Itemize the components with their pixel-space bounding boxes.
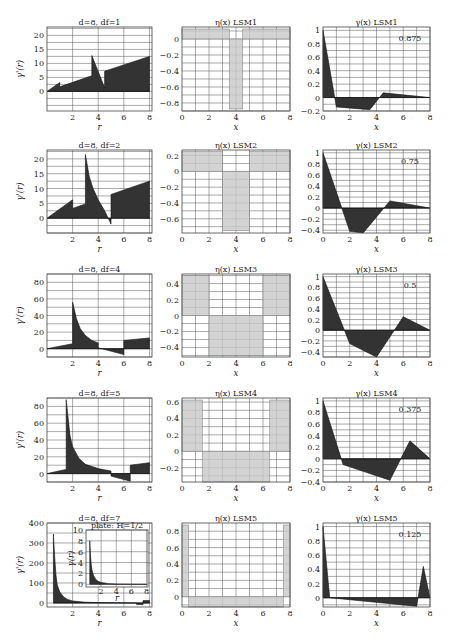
y-tick-label: 0.2 [166, 576, 179, 585]
y-tick-label: 0.4 [307, 182, 320, 191]
x-tick-label: 6 [121, 113, 126, 122]
x-tick-label: 4 [233, 484, 238, 493]
x-axis-label: x [374, 122, 379, 132]
y-tick-label: 60 [34, 295, 44, 304]
y-tick-label: 0.4 [166, 280, 179, 289]
chart-title: η(x) LSM5 [215, 514, 257, 523]
y-tick-label: 0 [39, 599, 44, 608]
y-tick-label: 0.2 [307, 443, 320, 452]
y-tick-label: 0 [174, 447, 179, 456]
y-tick-label: −0.8 [160, 99, 179, 108]
bar-1 [209, 316, 263, 356]
y-axis-label: γ'(r) [15, 431, 25, 449]
x-tick-label: 6 [401, 235, 406, 244]
x-tick-label: 4 [96, 484, 101, 493]
y-tick-label: −0.4 [301, 348, 320, 357]
y-tick-label: 0.8 [166, 527, 179, 536]
y-tick-label: 10 [34, 59, 44, 68]
chart-title: d=8, df=5 [79, 389, 121, 398]
y-tick-label: 5 [39, 199, 44, 208]
x-tick-label: 2 [99, 587, 104, 596]
bar-0 [182, 29, 229, 39]
x-tick-label: 0 [320, 609, 325, 618]
x-tick-label: 8 [427, 113, 432, 122]
bar-1 [223, 171, 250, 230]
x-tick-label: 8 [144, 587, 149, 596]
y-tick-label: 40 [34, 436, 44, 445]
annotation-value: 0.125 [399, 530, 422, 539]
x-tick-label: 6 [260, 609, 265, 618]
y-tick-label: 0 [39, 470, 44, 479]
x-tick-label: 2 [70, 235, 75, 244]
x-tick-label: 4 [374, 359, 379, 368]
x-tick-label: 4 [374, 235, 379, 244]
x-tick-label: 8 [287, 359, 292, 368]
x-tick-label: 4 [374, 113, 379, 122]
chart-title: γ(x) LSM2 [355, 141, 397, 150]
bar-1 [229, 39, 243, 109]
y-tick-label: 100 [29, 579, 44, 588]
y-tick-label: 8 [78, 537, 83, 546]
bar-2 [250, 152, 291, 172]
x-tick-label: 4 [96, 359, 101, 368]
y-tick-label: 1 [315, 149, 320, 158]
x-tick-label: 6 [260, 484, 265, 493]
x-tick-label: 0 [179, 359, 184, 368]
chart-panel-r1c1: 246805101520d=8, df=1rγ'(r) [15, 18, 152, 132]
x-tick-label: 8 [427, 609, 432, 618]
y-tick-label: 10 [34, 185, 44, 194]
y-tick-label: 80 [34, 278, 44, 287]
y-axis-label: γ'(r) [15, 60, 25, 78]
y-tick-label: 0.6 [307, 294, 320, 303]
y-tick-label: 0 [78, 580, 83, 589]
x-tick-label: 2 [206, 609, 211, 618]
x-axis-label: x [234, 244, 239, 254]
chart-panel-r3c3: 0246810.80.60.40.20−0.2−0.4γ(x) LSM3x0.5 [301, 265, 433, 378]
x-tick-label: 0 [320, 113, 325, 122]
x-axis-label: x [234, 122, 239, 132]
chart-panel-r2c1: 246805101520d=8, df=2rγ'(r) [15, 141, 152, 254]
chart-panel-r3c1: 2468020406080d=8, df=4rγ'(r) [15, 265, 152, 378]
x-tick-label: 6 [401, 484, 406, 493]
y-tick-label: 0.4 [307, 432, 320, 441]
y-tick-label: 0 [315, 326, 320, 335]
y-tick-label: 5 [39, 73, 44, 82]
bar-2 [243, 29, 290, 39]
x-tick-label: 8 [287, 235, 292, 244]
chart-panel-r4c2: 024680.60.40.20−0.2η(x) LSM4x [160, 389, 293, 503]
x-tick-label: 2 [347, 359, 352, 368]
y-tick-label: 0 [315, 594, 320, 603]
x-axis-label: x [234, 493, 239, 503]
chart-title: γ(x) LSM1 [355, 18, 397, 27]
x-tick-label: 2 [206, 113, 211, 122]
x-tick-label: 4 [233, 359, 238, 368]
x-tick-label: 6 [260, 113, 265, 122]
y-tick-label: 0.2 [307, 580, 320, 589]
y-tick-label: 6 [78, 548, 83, 557]
y-axis-label: γ(r) [66, 551, 76, 567]
y-tick-label: 0.2 [166, 152, 179, 161]
y-tick-label: 0.6 [166, 544, 179, 553]
y-tick-label: 20 [34, 453, 44, 462]
x-tick-label: 2 [70, 359, 75, 368]
x-tick-label: 8 [147, 359, 152, 368]
bar-0 [182, 152, 223, 172]
x-tick-label: 4 [233, 609, 238, 618]
x-tick-label: 0 [179, 484, 184, 493]
y-tick-label: 0.6 [166, 398, 179, 407]
y-axis-label: γ'(r) [15, 182, 25, 200]
x-axis-label: x [234, 618, 239, 628]
bar-0 [182, 400, 202, 451]
chart-title: η(x) LSM2 [215, 141, 257, 150]
y-axis-label: γ'(r) [15, 306, 25, 324]
y-tick-label: 0 [174, 35, 179, 44]
y-tick-label: 0 [39, 214, 44, 223]
x-tick-label: 2 [206, 359, 211, 368]
y-tick-label: 0.8 [307, 40, 320, 49]
y-tick-label: 1 [315, 397, 320, 406]
y-tick-label: −0.4 [160, 67, 179, 76]
x-tick-label: 2 [347, 235, 352, 244]
bar-0 [182, 525, 189, 597]
chart-title: plate: H=1/2 [91, 521, 143, 530]
y-tick-label: 20 [34, 31, 44, 40]
